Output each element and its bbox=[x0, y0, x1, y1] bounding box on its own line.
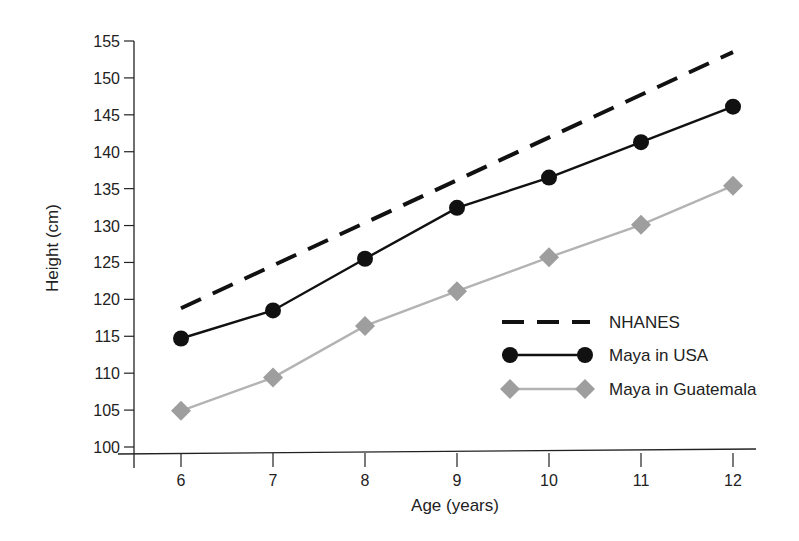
y-tick-label: 105 bbox=[93, 402, 120, 419]
data-point-diamond bbox=[723, 176, 743, 196]
data-point-circle bbox=[541, 170, 557, 186]
data-point-circle bbox=[633, 134, 649, 150]
y-tick-label: 145 bbox=[93, 107, 120, 124]
y-tick-label: 150 bbox=[93, 70, 120, 87]
series-maya-in-usa bbox=[173, 99, 741, 347]
series-line bbox=[181, 107, 733, 339]
x-tick-label: 11 bbox=[633, 472, 650, 489]
y-tick-label: 120 bbox=[93, 291, 120, 308]
series-layer bbox=[171, 52, 743, 421]
y-tick-label: 155 bbox=[93, 33, 120, 50]
legend-marker-circle bbox=[577, 347, 593, 363]
data-point-diamond bbox=[447, 281, 467, 301]
x-axis-line bbox=[118, 449, 756, 454]
series-nhanes bbox=[181, 52, 733, 308]
data-point-circle bbox=[449, 200, 465, 216]
y-tick-label: 125 bbox=[93, 254, 120, 271]
data-point-diamond bbox=[631, 215, 651, 235]
legend-marker-circle bbox=[502, 347, 518, 363]
legend-item: NHANES bbox=[502, 313, 680, 332]
y-tick-label: 135 bbox=[93, 181, 120, 198]
y-tick-label: 110 bbox=[94, 365, 120, 382]
y-axis: 100105110115120125130135140145150155 bbox=[93, 33, 134, 468]
data-point-diamond bbox=[171, 401, 191, 421]
y-tick-label: 130 bbox=[93, 218, 120, 235]
legend-item: Maya in USA bbox=[502, 346, 709, 365]
x-tick-label: 7 bbox=[269, 472, 278, 489]
x-tick-label: 10 bbox=[540, 472, 558, 489]
x-tick-label: 8 bbox=[361, 472, 370, 489]
line-chart: 100105110115120125130135140145150155 678… bbox=[0, 0, 799, 541]
x-tick-label: 6 bbox=[177, 472, 186, 489]
data-point-diamond bbox=[263, 368, 283, 388]
data-point-circle bbox=[725, 99, 741, 115]
legend-label: Maya in Guatemala bbox=[609, 380, 757, 399]
x-tick-label: 12 bbox=[724, 472, 742, 489]
legend: NHANESMaya in USAMaya in Guatemala bbox=[500, 313, 757, 399]
legend-marker-diamond bbox=[500, 379, 520, 399]
x-axis: 6789101112 bbox=[118, 449, 756, 489]
x-tick-label: 9 bbox=[453, 472, 462, 489]
legend-item: Maya in Guatemala bbox=[500, 379, 757, 399]
y-tick-label: 140 bbox=[93, 144, 120, 161]
y-tick-label: 100 bbox=[93, 439, 120, 456]
data-point-diamond bbox=[355, 316, 375, 336]
x-axis-label: Age (years) bbox=[411, 496, 499, 515]
data-point-circle bbox=[173, 330, 189, 346]
y-axis-label: Height (cm) bbox=[43, 204, 62, 292]
series-line bbox=[181, 52, 733, 308]
y-tick-label: 115 bbox=[94, 328, 120, 345]
legend-label: NHANES bbox=[609, 313, 680, 332]
data-point-circle bbox=[265, 302, 281, 318]
data-point-diamond bbox=[539, 247, 559, 267]
data-point-circle bbox=[357, 251, 373, 267]
legend-label: Maya in USA bbox=[609, 346, 709, 365]
legend-marker-diamond bbox=[575, 379, 595, 399]
